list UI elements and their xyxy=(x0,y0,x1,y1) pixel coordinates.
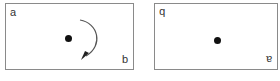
center-dot xyxy=(65,35,72,42)
panel-rotated: b a xyxy=(154,3,278,70)
center-dot xyxy=(214,37,221,44)
panel-original: a b xyxy=(5,3,134,70)
label-a-rotated: a xyxy=(266,54,272,65)
label-b-rotated: b xyxy=(159,7,165,18)
label-b: b xyxy=(122,54,128,65)
clockwise-arrow-icon xyxy=(76,17,106,62)
label-a: a xyxy=(10,7,16,18)
